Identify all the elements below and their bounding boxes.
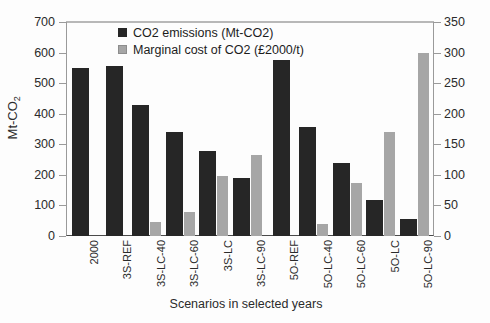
y-axis-right-tick [434, 22, 441, 23]
y-axis-right-tick-label: 0 [444, 230, 451, 243]
y-axis-left-tick-label: 100 [34, 199, 55, 212]
y-axis-right-tick [434, 114, 441, 115]
bar-marginal-cost [351, 183, 362, 236]
bar-marginal-cost [150, 222, 161, 236]
bar-marginal-cost [418, 53, 429, 236]
chart-legend: CO2 emissions (Mt-CO2) Marginal cost of … [118, 24, 304, 58]
y-axis-left-tick-label: 700 [34, 16, 55, 29]
y-axis-left-tick-label: 600 [34, 46, 55, 59]
y-axis-right-tick [434, 53, 441, 54]
bar-emissions [106, 66, 123, 236]
bar-emissions [333, 163, 350, 236]
y-axis-left-tick [59, 53, 66, 54]
y-axis-left-tick [59, 83, 66, 84]
bar-emissions [166, 132, 183, 236]
x-axis-tick-label: 2000 [88, 240, 100, 300]
y-axis-right-tick-label: 150 [444, 138, 465, 151]
y-axis-right-tick [434, 175, 441, 176]
y-axis-right-tick [434, 83, 441, 84]
y-axis-left-title: Mt-CO2 [2, 0, 26, 236]
y-axis-right-tick-label: 100 [444, 169, 465, 182]
y-axis-left-title-text: Mt-CO [5, 101, 20, 139]
y-axis-right-tick [434, 144, 441, 145]
legend-item-marginal-cost: Marginal cost of CO2 (£2000/t) [118, 41, 304, 58]
y-axis-left-tick [59, 114, 66, 115]
x-axis-tick-label: 3S-REF [121, 240, 133, 300]
x-axis-tick-label: 5O-REF [288, 240, 300, 300]
x-axis-tick-label: 5O-LC-60 [355, 240, 367, 300]
y-axis-left-tick-label: 200 [34, 169, 55, 182]
y-axis-right-tick-label: 250 [444, 77, 465, 90]
y-axis-right-tick-label: 300 [444, 46, 465, 59]
bar-emissions [400, 219, 417, 236]
x-axis-tick-label: 5O-LC-40 [322, 240, 334, 300]
x-axis-tick-label: 5O-LC [389, 240, 401, 300]
x-axis-tick-label: 3S-LC [222, 240, 234, 300]
bar-emissions [299, 127, 316, 236]
y-axis-left-tick-label: 300 [34, 138, 55, 151]
y-axis-left-tick [59, 144, 66, 145]
bar-marginal-cost [251, 155, 262, 236]
bar-emissions [273, 60, 290, 236]
y-axis-left-tick [59, 205, 66, 206]
legend-label-marginal-cost: Marginal cost of CO2 (£2000/t) [133, 43, 304, 57]
bar-marginal-cost [184, 212, 195, 236]
y-axis-right-tick-label: 350 [444, 16, 465, 29]
bar-emissions [132, 105, 149, 236]
x-axis-tick-label: 3S-LC-60 [188, 240, 200, 300]
y-axis-left-tick-label: 500 [34, 77, 55, 90]
bar-emissions [199, 151, 216, 236]
y-axis-left-title-sub: 2 [13, 96, 23, 101]
light-square-icon [118, 45, 127, 54]
y-axis-left-tick [59, 22, 66, 23]
dark-square-icon [118, 28, 127, 37]
x-axis-tick-label: 3S-LC-40 [155, 240, 167, 300]
y-axis-right-tick [434, 205, 441, 206]
y-axis-right-tick-label: 200 [444, 107, 465, 120]
y-axis-right-tick-label: 50 [444, 199, 458, 212]
bar-marginal-cost [217, 176, 228, 236]
legend-item-emissions: CO2 emissions (Mt-CO2) [118, 24, 304, 41]
bar-emissions [366, 200, 383, 236]
y-axis-left-tick-label: 0 [48, 230, 55, 243]
bar-emissions [72, 68, 89, 236]
bar-marginal-cost [384, 132, 395, 236]
legend-label-emissions: CO2 emissions (Mt-CO2) [133, 26, 273, 40]
chart-figure: Mt-CO2 010020030040050060070005010015020… [0, 0, 490, 323]
bar-marginal-cost [317, 224, 328, 236]
x-axis-tick-label: 5O-LC-90 [422, 240, 434, 300]
y-axis-left-tick-label: 400 [34, 107, 55, 120]
x-axis-title: Scenarios in selected years [66, 297, 426, 311]
bar-emissions [233, 178, 250, 236]
y-axis-left-tick [59, 236, 66, 237]
x-axis-tick-label: 3S-LC-90 [255, 240, 267, 300]
y-axis-left-tick [59, 175, 66, 176]
y-axis-right-tick [434, 236, 441, 237]
